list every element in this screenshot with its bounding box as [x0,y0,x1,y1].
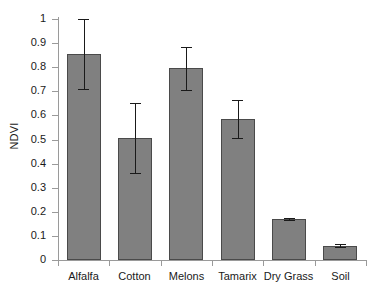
y-tick-label: 0.4 [2,158,46,169]
bar [221,119,255,260]
error-bar-cap-lower [130,173,141,174]
ndvi-bar-chart: NDVI 00.10.20.30.40.50.60.70.80.91 Alfal… [0,0,374,297]
x-axis-category-label: Alfalfa [58,270,109,282]
y-tick-label: 0.2 [2,206,46,217]
y-tick-label: 0.8 [2,61,46,72]
error-bar-cap-upper [335,244,346,245]
error-bar-cap-upper [232,100,243,101]
y-tick-label: 0.6 [2,109,46,120]
error-bar-cap-upper [130,103,141,104]
y-tick [52,19,58,20]
x-tick [315,260,316,266]
y-tick-label: 0.9 [2,37,46,48]
y-tick-label: 0.1 [2,230,46,241]
x-tick [109,260,110,266]
x-axis-category-label: Cotton [109,270,160,282]
y-tick-label: 1 [2,13,46,24]
y-axis-line [58,17,59,262]
x-tick [58,260,59,266]
error-bar-cap-lower [78,89,89,90]
x-tick [366,260,367,266]
error-bar-cap-lower [181,90,192,91]
y-tick [52,91,58,92]
y-tick [52,140,58,141]
y-tick [52,43,58,44]
error-bar-cap-lower [335,247,346,248]
error-bar-stem [186,47,187,90]
bar [169,68,203,260]
y-tick [52,164,58,165]
y-tick-label: 0 [2,254,46,265]
y-tick [52,212,58,213]
x-tick [161,260,162,266]
y-tick [52,188,58,189]
x-tick [263,260,264,266]
error-bar-stem [135,103,136,173]
error-bar-cap-lower [284,220,295,221]
y-tick-label: 0.5 [2,134,46,145]
bar [323,246,357,260]
x-axis-category-label: Melons [161,270,212,282]
error-bar-cap-upper [284,218,295,219]
y-tick-label: 0.3 [2,182,46,193]
x-tick [212,260,213,266]
y-tick-label: 0.7 [2,85,46,96]
error-bar-cap-upper [181,47,192,48]
error-bar-cap-upper [78,19,89,20]
error-bar-cap-lower [232,138,243,139]
x-axis-category-label: Tamarix [212,270,263,282]
x-axis-category-label: Soil [315,270,366,282]
y-tick [52,236,58,237]
x-axis-category-label: Dry Grass [263,270,314,282]
y-tick [52,115,58,116]
y-tick [52,67,58,68]
error-bar-stem [238,100,239,139]
bar [272,219,306,260]
error-bar-stem [84,19,85,89]
